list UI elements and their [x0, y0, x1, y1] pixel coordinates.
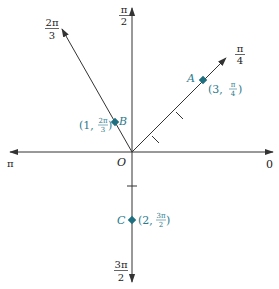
svg-text:2π: 2π — [98, 117, 107, 125]
label-three-half-pi: 3π 2 — [114, 259, 128, 283]
svg-text:0: 0 — [266, 158, 273, 171]
point-b-name: B — [118, 115, 127, 128]
svg-text:): ) — [166, 214, 170, 227]
svg-text:π: π — [121, 4, 128, 15]
ray-2pi-over-3 — [62, 29, 132, 152]
svg-text:3π: 3π — [156, 212, 165, 220]
svg-text:4: 4 — [237, 55, 243, 66]
label-two-third-pi: 2π 3 — [45, 17, 59, 41]
tick-mark — [152, 136, 159, 143]
svg-text:π: π — [237, 43, 244, 54]
point-marker — [128, 216, 136, 224]
label-half-pi: π 2 — [119, 4, 129, 27]
point-a-name: A — [186, 72, 195, 85]
svg-text:3: 3 — [101, 126, 105, 134]
svg-text:2: 2 — [159, 221, 163, 229]
polar-diagram: 0 π π 2 π 4 2π 3 3π 2 O A (3, π 4 ) B (1 — [0, 0, 279, 289]
point-b-coords-open: (1, — [79, 119, 94, 132]
svg-text:): ) — [108, 119, 112, 132]
point-a: A (3, π 4 ) — [186, 72, 242, 98]
svg-text:4: 4 — [231, 90, 236, 98]
svg-text:2: 2 — [118, 272, 124, 283]
tick-mark — [176, 112, 183, 119]
point-c: C (2, 3π 2 ) — [117, 212, 170, 229]
ray-pi-over-4 — [132, 58, 226, 152]
point-c-coords-open: (2, — [138, 214, 153, 227]
svg-text:3: 3 — [49, 30, 55, 41]
label-zero: 0 — [266, 158, 273, 171]
point-c-name: C — [117, 214, 126, 227]
svg-text:π: π — [231, 81, 236, 89]
point-marker — [199, 76, 207, 84]
point-a-coords-open: (3, — [208, 83, 223, 96]
label-pi: π — [7, 158, 14, 169]
svg-text:): ) — [238, 83, 242, 96]
label-quarter-pi: π 4 — [235, 43, 245, 66]
origin-label: O — [117, 156, 126, 169]
svg-text:π: π — [7, 158, 14, 169]
svg-text:2: 2 — [121, 16, 127, 27]
svg-text:2π: 2π — [46, 17, 59, 28]
svg-text:3π: 3π — [115, 259, 128, 270]
